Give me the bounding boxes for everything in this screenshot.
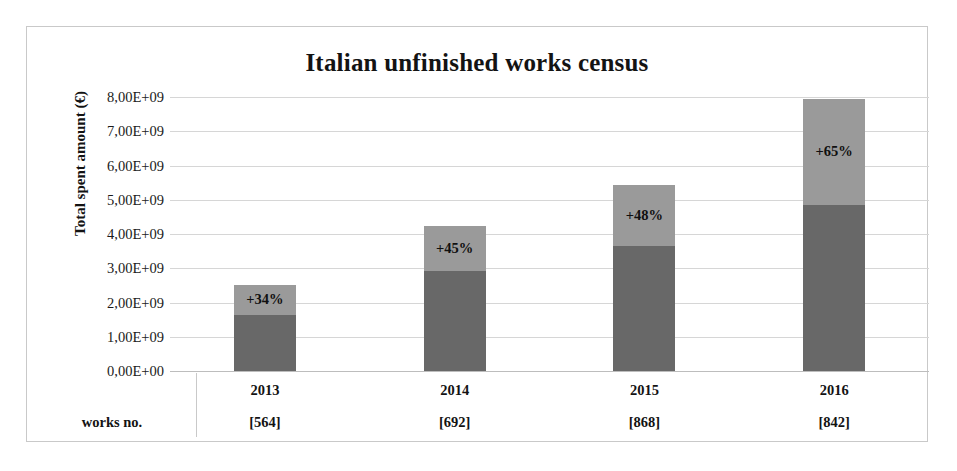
bar-2014[interactable]: +45% — [424, 226, 486, 371]
bar-2016[interactable]: +65% — [803, 99, 865, 371]
chart-title: Italian unfinished works census — [27, 49, 927, 77]
bar-segment-lower-2016[interactable] — [803, 205, 865, 371]
table-cell-works-no-2014: [692] — [400, 407, 510, 437]
y-axis-tick-label: 6,00E+09 — [44, 157, 164, 174]
y-axis-tick-labels: 8,00E+097,00E+096,00E+095,00E+094,00E+09… — [42, 97, 164, 371]
table-cell-year-2015: 2015 — [589, 375, 699, 405]
y-axis-tick-label: 1,00E+09 — [44, 328, 164, 345]
table-cell-works-no-2016: [842] — [779, 407, 889, 437]
y-axis-tick-label: 7,00E+09 — [44, 123, 164, 140]
y-axis-tick-label: 5,00E+09 — [44, 191, 164, 208]
axis-data-table: 2013201420152016 works no. [564][692][86… — [27, 371, 927, 443]
table-cell-year-2014: 2014 — [400, 375, 510, 405]
chart-figure-frame: Italian unfinished works census Total sp… — [26, 26, 928, 442]
table-cell-works-no-2013: [564] — [210, 407, 320, 437]
table-cell-year-2016: 2016 — [779, 375, 889, 405]
bar-percent-label-2016: +65% — [803, 143, 865, 160]
y-axis-tick-label: 3,00E+09 — [44, 260, 164, 277]
bar-segment-upper-2014[interactable]: +45% — [424, 226, 486, 271]
row-header-works-no: works no. — [37, 407, 187, 437]
y-axis-tick-label: 4,00E+09 — [44, 226, 164, 243]
bar-segment-upper-2015[interactable]: +48% — [613, 185, 675, 246]
bar-percent-label-2015: +48% — [613, 207, 675, 224]
table-cell-works-no-2015: [868] — [589, 407, 699, 437]
bar-segment-lower-2015[interactable] — [613, 246, 675, 371]
bar-segment-upper-2013[interactable]: +34% — [234, 285, 296, 314]
table-row-years: 2013201420152016 — [27, 375, 927, 405]
bar-percent-label-2014: +45% — [424, 240, 486, 257]
table-cell-year-2013: 2013 — [210, 375, 320, 405]
plot-area: +34%+45%+48%+65% — [170, 97, 929, 371]
bar-segment-lower-2014[interactable] — [424, 271, 486, 371]
y-axis-tick-label: 2,00E+09 — [44, 294, 164, 311]
bar-2013[interactable]: +34% — [234, 285, 296, 371]
bar-segment-lower-2013[interactable] — [234, 315, 296, 372]
y-axis-tick-label: 8,00E+09 — [44, 89, 164, 106]
bar-percent-label-2013: +34% — [234, 291, 296, 308]
table-row-works-no: works no. [564][692][868][842] — [27, 407, 927, 437]
bar-segment-upper-2016[interactable]: +65% — [803, 99, 865, 205]
bar-2015[interactable]: +48% — [613, 185, 675, 371]
